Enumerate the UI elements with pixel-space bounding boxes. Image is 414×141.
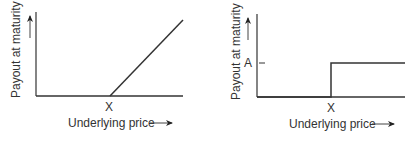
x-axis-label: Underlying price (289, 117, 376, 131)
x-axis-label: Underlying price (68, 116, 155, 130)
payoff-line (257, 63, 405, 97)
y-marker-label: A (244, 56, 252, 70)
y-axis-label: Payout at maturity (9, 1, 23, 98)
call-payoff-diagram: Payout at maturity X Underlying price (9, 1, 183, 130)
binary-payoff-diagram: Payout at maturity A X Underlying price (229, 3, 405, 131)
payoff-diagrams: Payout at maturity X Underlying price Pa… (0, 0, 414, 141)
x-marker-label: X (327, 101, 335, 115)
payoff-line (110, 20, 183, 96)
y-axis-label: Payout at maturity (229, 3, 243, 100)
x-marker-label: X (105, 100, 113, 114)
